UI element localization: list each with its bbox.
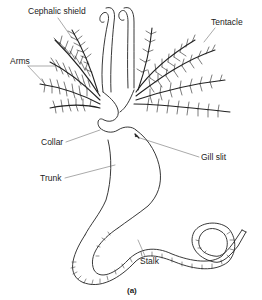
figure-caption: (a) — [127, 287, 137, 295]
leader-cephalic-shield — [58, 18, 72, 38]
leader-gill-slit — [140, 138, 199, 157]
label-cephalic-shield: Cephalic shield — [28, 7, 86, 16]
stalk-body — [71, 223, 246, 284]
cephalic-shield-shape — [98, 8, 134, 128]
leader-collar — [66, 130, 100, 142]
leader-arms-2 — [28, 66, 45, 84]
label-tentacle: Tentacle — [211, 18, 243, 27]
trunk-body — [85, 127, 161, 235]
arms-right — [134, 28, 230, 112]
diagram-illustration — [0, 0, 262, 300]
leader-trunk — [65, 165, 115, 178]
leader-tentacle — [204, 28, 215, 42]
label-trunk: Trunk — [40, 174, 61, 183]
label-gill-slit: Gill slit — [201, 153, 226, 162]
label-stalk: Stalk — [140, 257, 159, 266]
label-arms: Arms — [10, 57, 30, 66]
label-collar: Collar — [41, 138, 63, 147]
